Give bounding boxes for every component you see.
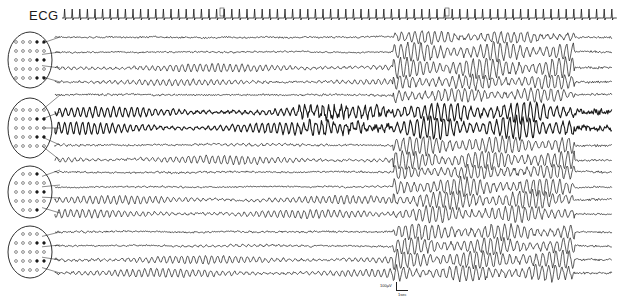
electrode-icon: [29, 233, 32, 236]
electrode-icon: [15, 251, 18, 254]
electrode-icon: [36, 50, 39, 53]
electrode-icon: [22, 173, 25, 176]
electrode-icon: [29, 260, 32, 263]
electrode-icon: [43, 182, 46, 185]
eeg-traces: [0, 0, 628, 301]
electrode-icon: [29, 242, 32, 245]
electrode-leader-line: [42, 37, 60, 43]
electrode-icon: [29, 109, 32, 112]
electrode-icon: [29, 251, 32, 254]
electrode-icon: [36, 242, 39, 245]
ecg-event-marker: [220, 8, 224, 16]
electrode-icon: [29, 77, 32, 80]
electrode-icon: [15, 50, 18, 53]
electrode-icon: [15, 242, 18, 245]
electrode-icon: [29, 127, 32, 130]
eeg-channel-trace: [55, 74, 612, 91]
electrode-icon: [36, 173, 39, 176]
electrode-icon: [29, 118, 32, 121]
electrode-icon: [36, 209, 39, 212]
electrode-icon: [36, 41, 39, 44]
electrode-icon: [15, 118, 18, 121]
electrode-icon: [36, 145, 39, 148]
electrode-icon: [15, 41, 18, 44]
eeg-channel-trace: [55, 176, 612, 197]
electrode-icon: [29, 200, 32, 203]
electrode-icon: [29, 50, 32, 53]
electrode-icon: [22, 127, 25, 130]
electrode-icon: [43, 242, 46, 245]
eeg-channel-trace: [55, 189, 612, 209]
electrode-icon: [36, 118, 39, 121]
electrode-icon: [22, 136, 25, 139]
scale-vertical-bar: [396, 282, 397, 290]
electrode-icon: [29, 41, 32, 44]
electrode-icon: [43, 59, 46, 62]
electrode-icon: [22, 209, 25, 212]
electrode-icon: [22, 260, 25, 263]
electrode-icon: [43, 260, 46, 263]
electrode-icon: [29, 145, 32, 148]
electrode-icon: [43, 191, 46, 194]
eeg-channel-trace: [55, 249, 612, 270]
electrode-icon: [22, 242, 25, 245]
electrode-icon: [22, 50, 25, 53]
electrode-icon: [43, 68, 46, 71]
eeg-channel-trace: [55, 31, 612, 45]
eeg-figure: ECG 100µV 1sec: [0, 0, 628, 301]
electrode-leader-line: [42, 268, 60, 273]
electrode-icon: [36, 109, 39, 112]
electrode-icon: [15, 59, 18, 62]
electrode-icon: [22, 59, 25, 62]
electrode-icon: [22, 191, 25, 194]
electrode-icon: [22, 118, 25, 121]
electrode-icon: [29, 68, 32, 71]
electrode-icon: [43, 200, 46, 203]
eeg-channel-trace: [55, 41, 612, 62]
eeg-channel-trace: [55, 164, 612, 179]
electrode-icon: [36, 59, 39, 62]
electrode-icon: [29, 173, 32, 176]
ecg-label: ECG: [29, 8, 59, 23]
electrode-icon: [15, 68, 18, 71]
electrode-icon: [36, 260, 39, 263]
eeg-channel-trace: [55, 57, 612, 80]
electrode-icon: [36, 251, 39, 254]
electrode-icon: [36, 77, 39, 80]
electrode-icon: [29, 136, 32, 139]
electrode-icon: [15, 145, 18, 148]
electrode-icon: [22, 41, 25, 44]
electrode-icon: [22, 145, 25, 148]
electrode-icon: [22, 68, 25, 71]
eeg-channel-trace: [55, 151, 612, 170]
eeg-channel-trace: [55, 136, 612, 156]
electrode-icon: [15, 182, 18, 185]
electrode-icon: [36, 136, 39, 139]
scale-amplitude-label: 100µV: [380, 283, 392, 288]
electrode-icon: [22, 251, 25, 254]
electrode-icon: [29, 209, 32, 212]
electrode-icon: [15, 127, 18, 130]
electrode-leader-line: [42, 95, 60, 110]
scale-time-label: 1sec: [398, 292, 406, 297]
ecg-event-marker: [445, 8, 449, 16]
electrode-icon: [22, 233, 25, 236]
eeg-channel-trace: [55, 264, 612, 282]
electrode-leader-line: [42, 197, 60, 198]
electrode-icon: [15, 77, 18, 80]
electrode-icon: [29, 191, 32, 194]
electrode-icon: [36, 127, 39, 130]
electrode-icon: [29, 59, 32, 62]
electrode-icon: [36, 233, 39, 236]
electrode-icon: [36, 68, 39, 71]
eeg-channel-trace: [55, 88, 612, 103]
electrode-icon: [22, 269, 25, 272]
scale-bar: 100µV 1sec: [380, 280, 420, 298]
electrode-icon: [15, 260, 18, 263]
electrode-icon: [15, 191, 18, 194]
scale-horizontal-bar: [396, 290, 408, 291]
electrode-icon: [36, 269, 39, 272]
electrode-icon: [36, 182, 39, 185]
electrode-icon: [22, 109, 25, 112]
eeg-channel-trace: [55, 102, 612, 124]
